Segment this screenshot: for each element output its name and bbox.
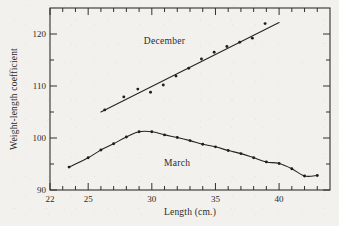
- series-annotations: DecemberMarch: [144, 36, 191, 168]
- data-point: [238, 41, 241, 44]
- data-point: [303, 175, 306, 178]
- data-point: [290, 167, 293, 170]
- data-point: [264, 22, 267, 25]
- series-label: March: [164, 158, 190, 168]
- data-point: [176, 136, 179, 139]
- series-december: [101, 22, 279, 112]
- data-point: [213, 51, 216, 54]
- data-point: [278, 162, 281, 165]
- data-point: [125, 136, 128, 139]
- data-point: [201, 143, 204, 146]
- data-point: [68, 166, 71, 169]
- data-point: [175, 75, 178, 78]
- data-point: [225, 45, 228, 48]
- data-point: [138, 130, 141, 133]
- data-point: [87, 156, 90, 159]
- x-tick-label: 35: [211, 194, 221, 204]
- data-point: [136, 88, 139, 91]
- data-point: [112, 142, 115, 145]
- y-tick-label: 110: [33, 81, 47, 91]
- data-point: [150, 130, 153, 133]
- x-axis-title: Length (cm.): [164, 207, 216, 218]
- data-point: [162, 84, 165, 87]
- data-point: [103, 108, 106, 111]
- data-point: [189, 139, 192, 142]
- y-tick-label: 90: [37, 185, 47, 195]
- data-point: [227, 149, 230, 152]
- data-point: [239, 152, 242, 155]
- data-point: [251, 37, 254, 40]
- data-point: [252, 156, 255, 159]
- data-point: [316, 174, 319, 177]
- data-point: [200, 58, 203, 61]
- fit-curve: [69, 131, 317, 176]
- x-tick-label: 30: [147, 194, 157, 204]
- data-point: [149, 91, 152, 94]
- data-point: [187, 67, 190, 70]
- data-point: [265, 160, 268, 163]
- data-point: [163, 133, 166, 136]
- trend-line: [101, 23, 279, 112]
- data-point: [214, 145, 217, 148]
- series-march: [68, 130, 319, 177]
- y-tick-label: 120: [33, 29, 47, 39]
- y-axis-title: Weight-length coefficient: [9, 48, 19, 150]
- data-point: [99, 149, 102, 152]
- y-tick-label: 100: [33, 133, 47, 143]
- x-tick-label: 25: [84, 194, 94, 204]
- chart-canvas: 222530354090100110120 DecemberMarch Leng…: [0, 0, 339, 226]
- series-label: December: [144, 36, 186, 46]
- x-tick-label: 22: [46, 194, 55, 204]
- axis-tick-labels: 222530354090100110120: [33, 29, 285, 204]
- data-series-group: [68, 22, 319, 177]
- x-tick-label: 40: [275, 194, 285, 204]
- figure-container: 222530354090100110120 DecemberMarch Leng…: [0, 0, 339, 226]
- data-point: [122, 95, 125, 98]
